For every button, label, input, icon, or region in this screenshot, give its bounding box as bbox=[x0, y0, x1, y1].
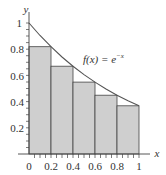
x-tick-label: 0.8 bbox=[110, 160, 124, 172]
y-axis-label: y bbox=[23, 3, 29, 15]
x-tick-label: 0.4 bbox=[66, 160, 80, 172]
bar-2 bbox=[51, 66, 73, 154]
bar-3 bbox=[73, 82, 95, 154]
bar-4 bbox=[95, 95, 117, 154]
function-label: f(x) = e−x bbox=[83, 52, 125, 66]
riemann-sum-chart: 0.2 0.4 0.6 0.8 1 0 0.2 0.4 0.6 0.8 1 y … bbox=[0, 0, 166, 175]
x-tick-label: 0 bbox=[26, 160, 32, 172]
y-tick-label: 0.8 bbox=[10, 43, 24, 55]
y-tick-label: 0.6 bbox=[10, 70, 24, 82]
x-tick-label: 0.2 bbox=[44, 160, 58, 172]
x-tick-label: 1 bbox=[136, 160, 142, 172]
x-tick-label: 0.6 bbox=[88, 160, 102, 172]
bar-1 bbox=[29, 47, 51, 154]
x-axis-label: x bbox=[154, 147, 160, 159]
x-ticks bbox=[35, 154, 140, 158]
y-tick-label: 0.2 bbox=[10, 122, 24, 134]
fn-prefix: f(x) = e bbox=[83, 53, 116, 66]
y-tick-label: 1 bbox=[17, 17, 23, 29]
fn-exponent: −x bbox=[116, 52, 125, 60]
bar-5 bbox=[117, 106, 139, 154]
y-tick-label: 0.4 bbox=[10, 96, 24, 108]
